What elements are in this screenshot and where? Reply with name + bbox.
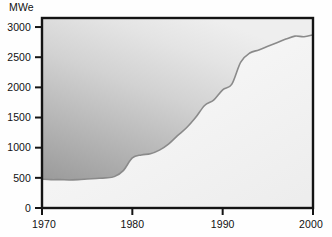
- plot-area: [42, 18, 313, 208]
- chart-figure: MWe: [0, 0, 332, 237]
- x-axis-tick-label: 1990: [211, 218, 235, 230]
- y-axis-tick-label: 500: [13, 172, 31, 184]
- chart-plot-svg: 050010001500200025003000 197019801990200…: [0, 0, 332, 237]
- x-axis-tick-label: 1970: [32, 218, 56, 230]
- y-axis-tick-label: 1000: [7, 141, 31, 153]
- y-axis-tick-label: 0: [25, 202, 31, 214]
- x-axis-tick-label: 1980: [120, 218, 144, 230]
- y-axis-tick-label: 3000: [7, 21, 31, 33]
- x-axis-ticks: 1970198019902000: [32, 208, 323, 230]
- y-axis-tick-label: 1500: [7, 111, 31, 123]
- x-axis-tick-label: 2000: [299, 218, 323, 230]
- y-axis-ticks: 050010001500200025003000: [7, 21, 42, 214]
- y-axis-tick-label: 2000: [7, 81, 31, 93]
- y-axis-tick-label: 2500: [7, 51, 31, 63]
